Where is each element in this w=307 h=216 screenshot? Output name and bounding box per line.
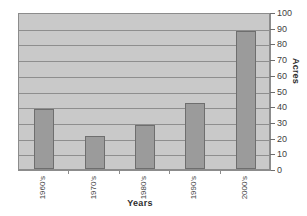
- y-axis-label: 20: [277, 135, 287, 144]
- y-axis-tick: [270, 29, 275, 30]
- y-axis-tick: [270, 13, 275, 14]
- y-axis-tick: [270, 92, 275, 93]
- bar-chart: 0102030405060708090100 Acres 1960's1970'…: [0, 0, 307, 216]
- x-axis-label: 1990's: [190, 176, 198, 199]
- bars-layer: [19, 14, 269, 169]
- bar: [185, 103, 205, 169]
- x-axis-line: [18, 170, 271, 171]
- x-axis-label: 2000's: [241, 176, 249, 199]
- x-axis-tick: [119, 170, 120, 174]
- y-axis-tick: [270, 76, 275, 77]
- y-axis-label: 60: [277, 72, 287, 81]
- y-axis-label: 100: [277, 9, 292, 18]
- y-axis-tick: [270, 139, 275, 140]
- plot-area: [18, 13, 270, 170]
- x-axis-label: 1980's: [140, 176, 148, 199]
- x-axis-tick: [169, 170, 170, 174]
- x-axis-label: 1970's: [90, 176, 98, 199]
- x-axis-title: Years: [0, 198, 280, 208]
- y-axis-tick: [270, 44, 275, 45]
- x-axis-label: 1960's: [39, 176, 47, 199]
- bar: [85, 136, 105, 169]
- y-axis-label: 50: [277, 88, 287, 97]
- y-axis-label: 10: [277, 150, 287, 159]
- y-axis-tick: [270, 154, 275, 155]
- bar: [135, 125, 155, 169]
- y-axis: 0102030405060708090100: [270, 13, 286, 170]
- y-axis-label: 40: [277, 103, 287, 112]
- y-axis-label: 30: [277, 119, 287, 128]
- y-axis-label: 0: [277, 166, 282, 175]
- y-axis-tick: [270, 60, 275, 61]
- bar: [34, 109, 54, 169]
- y-axis-label: 70: [277, 56, 287, 65]
- x-axis-tick: [68, 170, 69, 174]
- y-axis-tick: [270, 107, 275, 108]
- y-axis-label: 90: [277, 25, 287, 34]
- x-axis-tick: [220, 170, 221, 174]
- y-axis-tick: [270, 123, 275, 124]
- y-axis-label: 80: [277, 40, 287, 49]
- y-axis-title: Acres: [287, 58, 301, 84]
- bar: [236, 31, 256, 169]
